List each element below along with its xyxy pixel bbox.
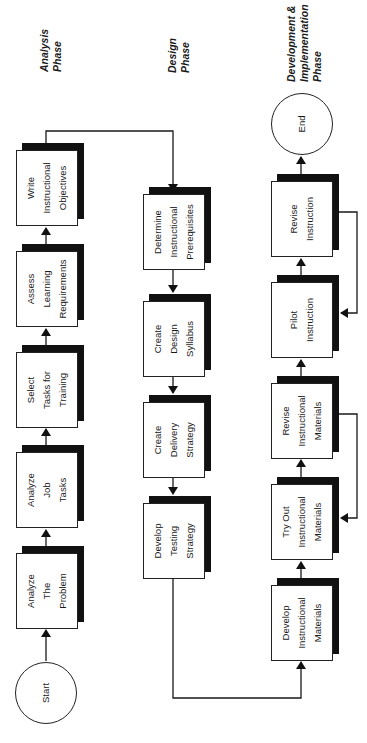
step-develop-testing-strategy: DevelopTestingStrategy — [143, 496, 211, 579]
end-terminal: End — [271, 93, 333, 155]
step-select-tasks: SelectTasks forTraining — [16, 345, 84, 428]
step-determine-prerequisites: DetermineInstructionalPrerequisites — [143, 187, 211, 270]
instructional-design-flowchart: AnalysisPhase DesignPhase Development &I… — [0, 0, 367, 743]
step-analyze-problem: AnalyzeTheProblem — [16, 546, 84, 629]
phase-label-development: Development &ImplementationPhase — [285, 4, 324, 82]
end-label: End — [294, 116, 310, 133]
step-write-objectives: WriteInstructionalObjectives — [16, 143, 84, 226]
start-label: Start — [38, 683, 54, 703]
step-assess-requirements: AssessLearningRequirements — [16, 244, 84, 327]
step-revise-materials: ReviseInstructionalMaterials — [271, 376, 339, 459]
step-pilot-instruction: PilotInstruction — [271, 275, 339, 358]
step-try-out-materials: Try OutInstructionalMaterials — [271, 477, 339, 560]
phase-label-design: DesignPhase — [166, 38, 192, 73]
step-create-design-syllabus: CreateDesignSyllabus — [143, 294, 211, 377]
phase-label-analysis: AnalysisPhase — [38, 29, 64, 72]
step-analyze-job-tasks: AnalyzeJobTasks — [16, 445, 84, 528]
step-create-delivery-strategy: CreateDeliveryStrategy — [143, 395, 211, 478]
step-develop-materials: DevelopInstructionalMaterials — [271, 578, 339, 661]
start-terminal: Start — [15, 662, 77, 724]
step-revise-instruction: ReviseInstruction — [271, 174, 339, 257]
